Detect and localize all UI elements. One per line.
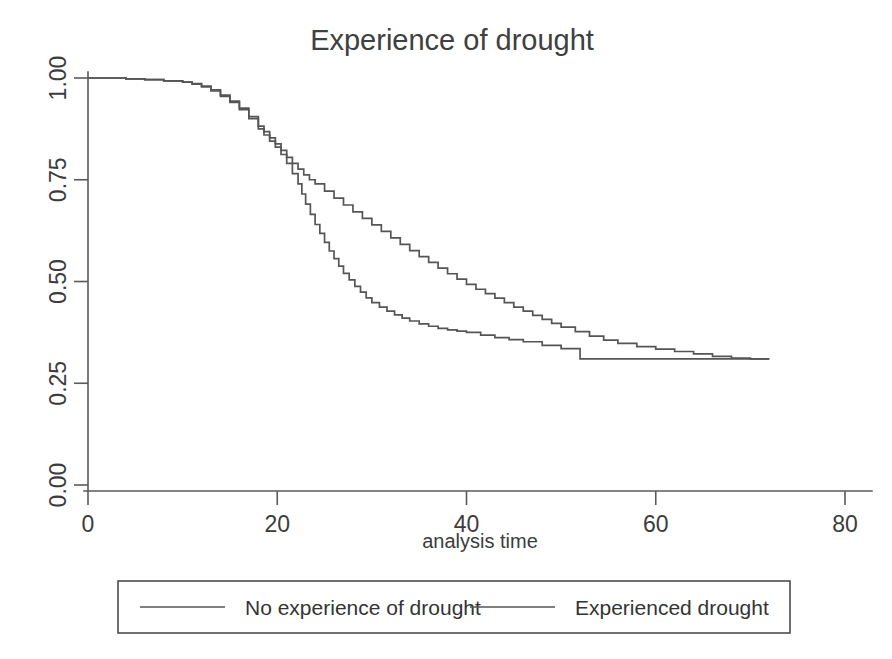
y-tick-label-4: 1.00 bbox=[45, 56, 71, 101]
x-axis-title: analysis time bbox=[422, 530, 538, 552]
y-tick-label-3: 0.75 bbox=[45, 157, 71, 202]
legend-label-experienced-drought: Experienced drought bbox=[575, 596, 769, 619]
y-tick-label-1: 0.25 bbox=[45, 361, 71, 406]
x-tick-label-4: 80 bbox=[832, 511, 858, 537]
x-tick-label-1: 20 bbox=[264, 511, 290, 537]
y-tick-label-2: 0.50 bbox=[45, 259, 71, 304]
x-tick-label-3: 60 bbox=[643, 511, 669, 537]
legend-label-no-experience-of-drought: No experience of drought bbox=[245, 596, 481, 619]
chart-figure: Experience of drought 0.000.250.500.751.… bbox=[0, 0, 892, 659]
chart-title: Experience of drought bbox=[310, 24, 594, 56]
kaplan-meier-survival-chart: Experience of drought 0.000.250.500.751.… bbox=[0, 0, 892, 659]
y-tick-label-0: 0.00 bbox=[45, 463, 71, 508]
legend: No experience of drought Experienced dro… bbox=[118, 581, 790, 633]
chart-background bbox=[0, 0, 892, 659]
x-tick-label-0: 0 bbox=[82, 511, 95, 537]
